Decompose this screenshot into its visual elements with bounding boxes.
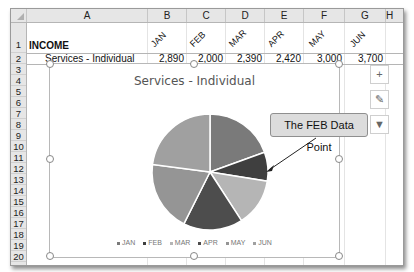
row-header-4[interactable]: 4 bbox=[11, 75, 26, 86]
chart-elements-button[interactable]: + bbox=[370, 65, 389, 84]
column-header-a[interactable]: A bbox=[27, 9, 148, 22]
row-header-14[interactable]: 14 bbox=[11, 185, 26, 196]
pie-chart[interactable]: Services - Individual JAN FEB MAR APR MA… bbox=[49, 63, 340, 258]
cell-b1[interactable]: JAN bbox=[149, 30, 168, 49]
column-header-b[interactable]: B bbox=[148, 9, 187, 22]
chart-filters-button[interactable]: ▼ bbox=[370, 115, 389, 134]
cell-g2[interactable]: 3,700 bbox=[345, 53, 383, 64]
cell-d1[interactable]: MAR bbox=[227, 28, 248, 49]
row-headers: 1 2 3 4 5 6 7 8 9 10 11 12 13 14 15 16 1… bbox=[11, 23, 27, 265]
row-header-16[interactable]: 16 bbox=[11, 207, 26, 218]
resize-handle-right[interactable] bbox=[335, 155, 343, 163]
cell-a1[interactable]: INCOME bbox=[29, 40, 69, 51]
plus-icon: + bbox=[376, 68, 382, 80]
row-header-1[interactable]: 1 bbox=[11, 23, 26, 53]
cell-c1[interactable]: FEB bbox=[188, 30, 207, 49]
row-header-5[interactable]: 5 bbox=[11, 86, 26, 97]
legend-item-apr: APR bbox=[198, 239, 217, 246]
row-header-13[interactable]: 13 bbox=[11, 174, 26, 185]
resize-handle-bottom-right[interactable] bbox=[335, 252, 343, 260]
gridline bbox=[385, 23, 386, 265]
pie-slice-jun bbox=[153, 114, 211, 172]
resize-handle-top[interactable] bbox=[190, 60, 198, 68]
row-header-6[interactable]: 6 bbox=[11, 97, 26, 108]
legend-item-jun: JUN bbox=[253, 239, 272, 246]
chart-legend: JAN FEB MAR APR MAY JUN bbox=[50, 239, 339, 246]
row-header-2[interactable]: 2 bbox=[11, 53, 26, 64]
filter-icon: ▼ bbox=[374, 118, 385, 130]
row-header-12[interactable]: 12 bbox=[11, 163, 26, 174]
row-header-18[interactable]: 18 bbox=[11, 229, 26, 240]
row-header-7[interactable]: 7 bbox=[11, 108, 26, 119]
column-header-f[interactable]: F bbox=[304, 9, 345, 22]
legend-item-jan: JAN bbox=[117, 239, 135, 246]
resize-handle-bottom-left[interactable] bbox=[46, 252, 54, 260]
brush-icon: ✎ bbox=[375, 93, 384, 105]
column-header-h[interactable]: H bbox=[386, 9, 404, 22]
column-header-e[interactable]: E bbox=[265, 9, 304, 22]
legend-item-mar: MAR bbox=[170, 239, 191, 246]
row-header-19[interactable]: 19 bbox=[11, 240, 26, 251]
row-header-3[interactable]: 3 bbox=[11, 64, 26, 75]
pie-plot bbox=[50, 64, 339, 257]
row-header-20[interactable]: 20 bbox=[11, 251, 26, 262]
cell-e1[interactable]: APR bbox=[266, 29, 286, 49]
feb-callout: The FEB Data Point bbox=[270, 113, 368, 137]
row-header-11[interactable]: 11 bbox=[11, 152, 26, 163]
row-header-10[interactable]: 10 bbox=[11, 141, 26, 152]
row-header-9[interactable]: 9 bbox=[11, 130, 26, 141]
chart-styles-button[interactable]: ✎ bbox=[370, 90, 389, 109]
row-header-17[interactable]: 17 bbox=[11, 218, 26, 229]
column-header-d[interactable]: D bbox=[226, 9, 265, 22]
select-all-corner[interactable] bbox=[11, 9, 27, 22]
legend-item-may: MAY bbox=[226, 239, 246, 246]
row-header-15[interactable]: 15 bbox=[11, 196, 26, 207]
resize-handle-bottom[interactable] bbox=[190, 252, 198, 260]
resize-handle-top-right[interactable] bbox=[335, 60, 343, 68]
column-header-g[interactable]: G bbox=[345, 9, 386, 22]
resize-handle-top-left[interactable] bbox=[46, 60, 54, 68]
column-headers: A B C D E F G H bbox=[11, 9, 403, 23]
row-header-8[interactable]: 8 bbox=[11, 119, 26, 130]
cell-f1[interactable]: MAY bbox=[307, 29, 327, 49]
cell-g1[interactable]: JUN bbox=[348, 30, 367, 49]
legend-item-feb: FEB bbox=[143, 239, 162, 246]
column-header-c[interactable]: C bbox=[187, 9, 226, 22]
resize-handle-left[interactable] bbox=[46, 155, 54, 163]
